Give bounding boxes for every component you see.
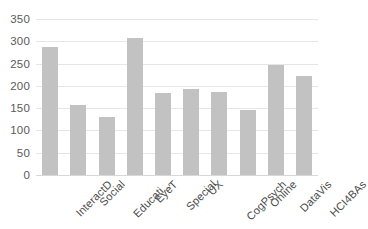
bar	[183, 89, 199, 175]
x-axis-category-label: HCI4BAs	[327, 178, 368, 219]
bar-series	[36, 19, 318, 175]
x-axis: InteractDSocialEducati...EyeTSpecialUXCo…	[36, 176, 318, 229]
y-axis-tick-label: 0	[23, 169, 30, 181]
bar	[70, 105, 86, 175]
y-axis-tick-label: 50	[17, 147, 30, 159]
bar	[296, 76, 312, 175]
y-axis-tick-label: 250	[10, 58, 30, 70]
bar	[211, 92, 227, 175]
bar	[240, 110, 256, 175]
bar	[42, 47, 58, 175]
bar	[155, 93, 171, 175]
y-axis-tick-label: 150	[10, 102, 30, 114]
y-axis-tick-label: 350	[10, 13, 30, 25]
plot-area	[36, 19, 318, 175]
y-axis-tick-label: 100	[10, 124, 30, 136]
y-axis-tick-label: 300	[10, 35, 30, 47]
bar	[127, 38, 143, 175]
bar	[99, 117, 115, 175]
y-axis-tick-label: 200	[10, 80, 30, 92]
bar	[268, 65, 284, 175]
x-axis-category-label: EyeT	[152, 178, 179, 205]
y-axis: 050100150200250300350	[0, 0, 34, 229]
